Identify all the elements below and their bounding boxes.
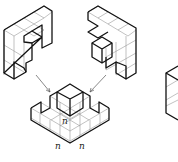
diagram-canvas	[0, 0, 178, 162]
label-n-left: n	[55, 142, 61, 151]
label-n-vertical: n	[62, 117, 68, 126]
partial-cube-stack	[166, 66, 178, 120]
arrows	[36, 75, 106, 92]
stepped-pyramid	[31, 84, 109, 143]
arrow-right	[90, 75, 106, 92]
label-n-right: n	[79, 142, 85, 151]
left-cube-stack	[4, 6, 52, 80]
right-cube-stack	[88, 6, 136, 80]
arrow-left	[36, 75, 50, 92]
